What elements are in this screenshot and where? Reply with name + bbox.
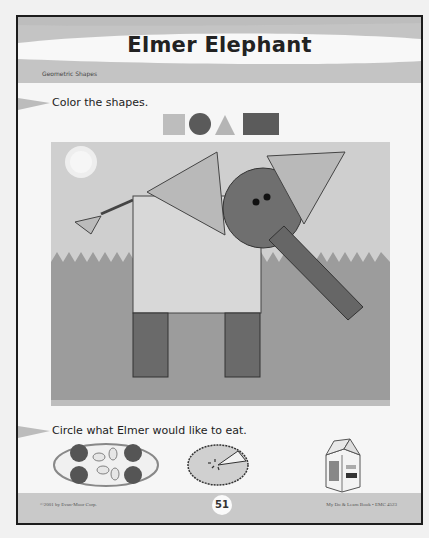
legend-rectangle	[243, 113, 279, 135]
legend-square	[163, 114, 185, 135]
copyright-text: ©2001 by Evan-Moor Corp.	[40, 502, 97, 507]
food-plate-of-peanuts[interactable]	[51, 440, 161, 490]
food-pie[interactable]	[186, 441, 252, 487]
page-footer: ©2001 by Evan-Moor Corp. 51 My Do & Lear…	[18, 493, 421, 523]
instruction-text: Color the shapes.	[52, 96, 148, 109]
food-milk-carton[interactable]	[320, 437, 366, 493]
elephant-leg-right	[225, 313, 260, 377]
page-title: Elmer Elephant	[18, 33, 421, 57]
page-subtitle: Geometric Shapes	[42, 70, 97, 77]
shape-legend	[163, 111, 293, 137]
sun-icon	[65, 146, 97, 178]
instruction-color-shapes: Color the shapes.	[18, 98, 421, 112]
elephant-leg-left	[133, 313, 168, 377]
elephant-eye-right	[264, 194, 271, 201]
elephant-scene	[51, 142, 390, 406]
instruction-text: Circle what Elmer would like to eat.	[52, 424, 247, 437]
worksheet-page: Elmer Elephant Geometric Shapes Color th…	[16, 15, 423, 525]
legend-triangle	[215, 115, 235, 135]
elephant-eye-left	[253, 199, 260, 206]
legend-circle	[189, 113, 211, 135]
book-info-text: My Do & Learn Book • EMC 4523	[326, 502, 397, 507]
page-number: 51	[212, 495, 232, 515]
